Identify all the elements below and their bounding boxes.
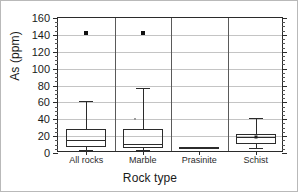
y-axis-tick-right xyxy=(282,153,287,154)
data-point xyxy=(134,118,136,120)
box-plot-group xyxy=(58,18,115,151)
x-axis-tick-label: Prasinite xyxy=(182,156,217,165)
y-axis-tick-label: 100 xyxy=(32,63,50,74)
y-axis-tick-label: 60 xyxy=(38,97,50,108)
whisker-upper xyxy=(86,101,87,130)
y-axis-tick-label: 40 xyxy=(38,114,50,125)
x-axis-title: Rock type xyxy=(1,171,298,185)
y-axis-tick-label: 120 xyxy=(32,46,50,57)
y-axis-tick-label: 0 xyxy=(44,148,50,159)
whisker-upper xyxy=(256,118,257,133)
y-axis-tick xyxy=(53,153,58,154)
x-axis-tick-label: All rocks xyxy=(69,156,103,165)
box-iqr xyxy=(123,129,163,148)
median-line xyxy=(179,147,219,148)
y-axis-tick-label: 20 xyxy=(38,131,50,142)
whisker-cap-upper xyxy=(79,101,93,102)
plot-area: 020406080100120140160 All rocksMarblePra… xyxy=(57,17,283,152)
outlier-marker xyxy=(141,31,145,35)
box-plot-group xyxy=(228,18,285,151)
box-plot-group xyxy=(171,18,228,151)
whisker-cap-lower xyxy=(249,148,263,149)
box-iqr xyxy=(66,129,106,147)
median-line xyxy=(123,144,163,145)
outlier-marker xyxy=(84,31,88,35)
median-line xyxy=(66,140,106,141)
x-axis-tick-label: Marble xyxy=(129,156,157,165)
y-axis-title: As (ppm) xyxy=(8,8,22,104)
y-axis-tick-label: 80 xyxy=(38,80,50,91)
y-axis-tick-label: 140 xyxy=(32,29,50,40)
whisker-cap-upper xyxy=(249,118,263,119)
box-plot-group xyxy=(115,18,172,151)
x-axis-tick-label: Schist xyxy=(243,156,268,165)
y-axis-tick-label: 160 xyxy=(32,13,50,24)
whisker-cap-upper xyxy=(136,88,150,89)
whisker-upper xyxy=(143,88,144,129)
mean-marker xyxy=(254,135,257,138)
box-plot-figure: As (ppm) Rock type 020406080100120140160… xyxy=(0,0,298,192)
